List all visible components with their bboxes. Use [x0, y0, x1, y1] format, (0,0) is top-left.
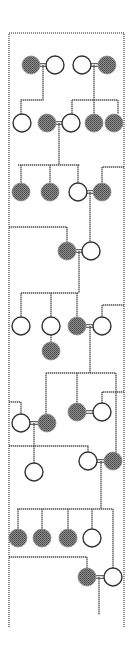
- pedigree-diagram: [0, 0, 134, 651]
- affected-individual: [104, 452, 122, 470]
- descent-line: [102, 392, 124, 403]
- unaffected-individual: [79, 452, 97, 470]
- unaffected-individual: [25, 463, 43, 481]
- affected-individual: [42, 342, 60, 360]
- descent-line: [9, 557, 87, 568]
- unaffected-individual: [12, 414, 30, 432]
- affected-individual: [33, 529, 51, 547]
- unaffected-individual: [82, 242, 100, 260]
- unaffected-individual: [93, 403, 111, 421]
- unaffected-individual: [83, 529, 101, 547]
- affected-individual: [85, 114, 103, 132]
- marriage-lines: [30, 64, 104, 579]
- marriage-connector: [96, 576, 104, 579]
- affected-individual: [78, 568, 96, 586]
- affected-individual: [58, 242, 76, 260]
- affected-individual: [93, 183, 111, 201]
- unaffected-individual: [93, 317, 111, 335]
- affected-individual: [68, 317, 86, 335]
- descent-line: [9, 402, 21, 414]
- affected-individual: [22, 56, 40, 74]
- unaffected-individual: [73, 56, 91, 74]
- unaffected-individual: [46, 56, 64, 74]
- descent-line: [102, 305, 124, 317]
- marriage-connector: [86, 411, 93, 414]
- unaffected-individual: [69, 183, 87, 201]
- affected-individual: [38, 114, 56, 132]
- descent-line: [9, 227, 67, 242]
- unaffected-individual: [62, 114, 80, 132]
- affected-individual: [9, 529, 27, 547]
- individuals: [9, 56, 123, 586]
- affected-individual: [98, 56, 116, 74]
- affected-individual: [59, 529, 77, 547]
- descent-line: [102, 167, 124, 183]
- affected-individual: [105, 114, 123, 132]
- affected-individual: [38, 414, 56, 432]
- affected-individual: [12, 183, 30, 201]
- unaffected-individual: [104, 568, 122, 586]
- affected-individual: [68, 403, 86, 421]
- unaffected-individual: [13, 114, 31, 132]
- descent-line: [9, 446, 88, 452]
- unaffected-individual: [12, 317, 30, 335]
- affected-individual: [41, 183, 59, 201]
- unaffected-individual: [42, 317, 60, 335]
